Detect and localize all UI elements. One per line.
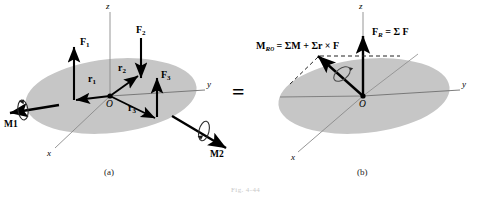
figure-caption: Fig. 4-44 — [231, 187, 260, 194]
figure-container: z y x O F1 F2 F3 r1 r2 r3 M1 M2 (a) = z … — [0, 0, 480, 198]
panel-b-label: (b) — [357, 168, 368, 177]
panel-a-label: (a) — [104, 168, 114, 177]
position-vector-r2-label: r2 — [118, 63, 126, 75]
couple-moment-m1-label: M1 — [4, 120, 18, 130]
y-axis-label-a: y — [207, 80, 211, 89]
position-vector-r1-label: r1 — [88, 74, 96, 86]
origin-label-a: O — [106, 100, 113, 110]
panel-a-graphics — [10, 12, 226, 148]
x-axis-label-b: x — [291, 153, 295, 162]
resultant-moment-label: MRO = ΣM + Σr × F — [256, 41, 339, 53]
force-f1-label: F1 — [80, 37, 90, 49]
resultant-force-label: FR = Σ F — [372, 27, 409, 39]
equivalence-sign: = — [232, 81, 245, 103]
z-axis-label-a: z — [106, 2, 110, 11]
couple-moment-m2-label: M2 — [210, 150, 224, 160]
z-axis-label-b: z — [359, 2, 363, 11]
force-f3-label: F3 — [161, 70, 171, 82]
force-f2-label: F2 — [136, 25, 146, 37]
panel-b-graphics — [275, 12, 460, 152]
x-axis-label-a: x — [47, 149, 51, 158]
origin-label-b: O — [359, 100, 366, 110]
position-vector-r3-label: r3 — [128, 103, 136, 115]
y-axis-label-b: y — [462, 80, 466, 89]
